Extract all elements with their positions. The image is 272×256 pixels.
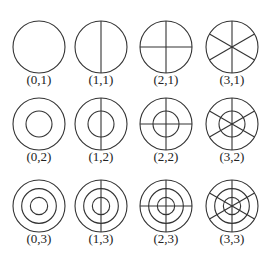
cell-label: (3,2) xyxy=(220,149,245,164)
ring-circle xyxy=(22,189,57,224)
cell-label: (2,3) xyxy=(154,231,179,246)
diagram-cell: (2,3) xyxy=(140,180,192,246)
cell-label: (2,1) xyxy=(154,72,179,87)
ring-circle xyxy=(30,197,47,214)
diagram-cell: (0,1) xyxy=(13,21,65,87)
diagram-cell: (0,3) xyxy=(13,180,65,246)
cell-label: (3,1) xyxy=(220,72,245,87)
ring-circle xyxy=(26,111,52,137)
cell-label: (1,2) xyxy=(89,149,114,164)
cell-label: (0,2) xyxy=(27,149,52,164)
cell-label: (1,3) xyxy=(89,231,114,246)
ring-circle xyxy=(13,21,65,73)
diagram-cell: (2,2) xyxy=(140,98,192,164)
cell-label: (0,3) xyxy=(27,231,52,246)
diagram-cell: (3,1) xyxy=(206,21,258,87)
diagram-cell: (0,2) xyxy=(13,98,65,164)
cell-label: (2,2) xyxy=(154,149,179,164)
diagram-cell: (1,3) xyxy=(75,180,127,246)
cell-label: (3,3) xyxy=(220,231,245,246)
diagram-cell: (3,2) xyxy=(206,98,258,164)
diagram-cell: (1,2) xyxy=(75,98,127,164)
cell-label: (0,1) xyxy=(27,72,52,87)
cell-label: (1,1) xyxy=(89,72,114,87)
diagram-cell: (2,1) xyxy=(140,21,192,87)
circle-partition-diagram: (0,1)(1,1)(2,1)(3,1)(0,2)(1,2)(2,2)(3,2)… xyxy=(0,0,272,256)
ring-circle xyxy=(13,180,65,232)
diagram-cell: (1,1) xyxy=(75,21,127,87)
diagram-cell: (3,3) xyxy=(206,180,258,246)
ring-circle xyxy=(13,98,65,150)
